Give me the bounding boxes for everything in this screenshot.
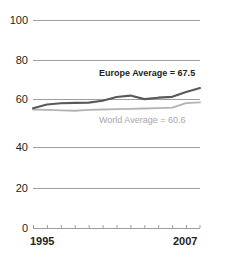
chart-plot-area <box>0 0 234 254</box>
x-axis-ticks <box>34 225 201 228</box>
y-axis-label-20: 20 <box>2 183 28 194</box>
series-line-europe-average <box>33 88 200 108</box>
annotation-world-average: World Average = 60.6 <box>99 115 185 125</box>
y-axis-label-40: 40 <box>2 142 28 153</box>
x-axis-label-1995: 1995 <box>30 236 54 247</box>
y-axis-label-60: 60 <box>2 94 28 105</box>
annotation-europe-average: Europe Average = 67.5 <box>99 68 195 78</box>
line-chart: 100 80 60 40 20 0 1995 2007 Europe Avera… <box>0 0 234 254</box>
y-axis-label-100: 100 <box>2 15 28 26</box>
y-axis-label-0: 0 <box>2 223 28 234</box>
y-axis-label-80: 80 <box>2 55 28 66</box>
x-axis-label-2007: 2007 <box>173 236 197 247</box>
